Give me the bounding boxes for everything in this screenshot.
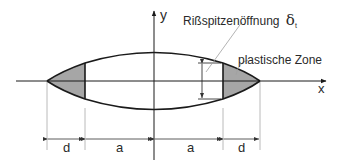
ctod-symbol: δ [286, 11, 295, 29]
dim-label-d-right: d [238, 141, 245, 154]
dim-label-a-left: a [116, 141, 123, 154]
y-axis-label: y [160, 8, 167, 22]
dim-label-d-left: d [63, 141, 70, 154]
x-axis-label: x [318, 82, 325, 95]
ctod-text: Rißspitzenöffnung [183, 14, 280, 28]
dim-label-a-right: a [187, 141, 194, 154]
ctod-subscript: t [295, 22, 297, 29]
ctod-label: Rißspitzenöffnung δt [183, 13, 297, 29]
plastic-zone-label: plastische Zone [238, 54, 322, 66]
